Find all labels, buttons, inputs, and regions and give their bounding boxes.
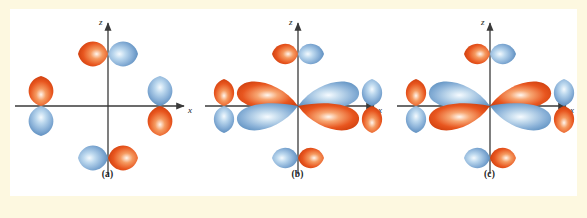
lobe-orange bbox=[214, 79, 234, 106]
lobe-blue bbox=[29, 106, 54, 136]
lobe-blue bbox=[78, 146, 108, 171]
lobe-orange bbox=[108, 146, 138, 171]
panel-b-caption: (b) bbox=[200, 169, 395, 179]
lobe-blue bbox=[406, 106, 426, 133]
z-axis-label: z bbox=[98, 17, 103, 27]
center-lobe-lower-right bbox=[490, 103, 551, 130]
lobe-blue bbox=[272, 148, 298, 168]
lobe-orange bbox=[406, 79, 426, 106]
panel-c-diagram: z x bbox=[392, 9, 587, 184]
x-axis-label: x bbox=[187, 105, 192, 115]
lobe-blue bbox=[298, 44, 324, 64]
z-axis-label: z bbox=[288, 17, 293, 27]
panel-b: z x bbox=[200, 9, 395, 196]
lobe-orange bbox=[148, 106, 173, 136]
panel-a: z x bbox=[10, 9, 205, 196]
lobe-blue bbox=[362, 79, 382, 106]
center-lobe-lower-left bbox=[237, 103, 298, 130]
lobe-orange bbox=[464, 44, 490, 64]
panel-a-diagram: z x bbox=[10, 9, 205, 184]
lobe-blue bbox=[214, 106, 234, 133]
center-lobe-lower-right bbox=[298, 103, 359, 130]
figure-canvas: z x bbox=[10, 9, 577, 196]
lobe-blue bbox=[554, 79, 574, 106]
panel-c: z x bbox=[392, 9, 587, 196]
lobe-blue bbox=[490, 44, 516, 64]
figure-root: z x bbox=[0, 0, 587, 218]
panel-a-caption: (a) bbox=[10, 169, 205, 179]
panel-c-caption: (c) bbox=[392, 169, 587, 179]
lobe-orange bbox=[298, 148, 324, 168]
lobe-orange bbox=[29, 76, 54, 106]
lobe-orange bbox=[490, 148, 516, 168]
z-axis-label: z bbox=[480, 17, 485, 27]
lobe-orange bbox=[78, 42, 108, 67]
lobe-blue bbox=[108, 42, 138, 67]
center-lobe-lower-left bbox=[429, 103, 490, 130]
lobe-orange bbox=[272, 44, 298, 64]
lobe-blue bbox=[464, 148, 490, 168]
lobe-blue bbox=[148, 76, 173, 106]
panel-b-diagram: z x bbox=[200, 9, 395, 184]
